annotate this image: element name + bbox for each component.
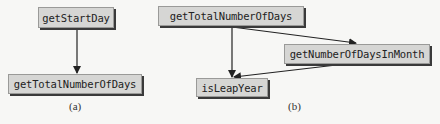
caption-b: (b) <box>288 100 301 112</box>
diagram-canvas: getStartDay getTotalNumberOfDays (a) get… <box>0 0 440 124</box>
caption-a: (a) <box>69 100 81 112</box>
edge-b-getnumberofdaysinmonth-to-isleapyear <box>234 64 345 77</box>
node-a-getstartday: getStartDay <box>38 7 114 28</box>
node-b-gettotalnumberofdays: getTotalNumberOfDays <box>158 6 304 26</box>
node-b-getnumberofdaysinmonth: getNumberOfDaysInMonth <box>284 44 430 64</box>
node-a-gettotalnumberofdays: getTotalNumberOfDays <box>8 74 142 94</box>
edge-b-gettotal-to-getnumberofdaysinmonth <box>232 27 356 43</box>
node-b-isleapyear: isLeapYear <box>196 78 268 97</box>
